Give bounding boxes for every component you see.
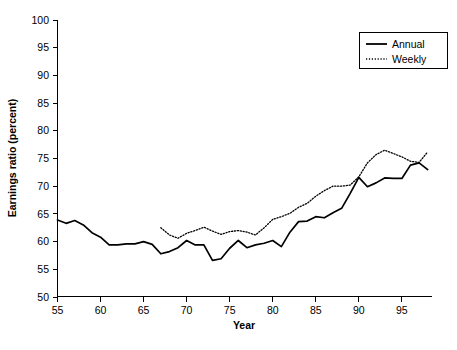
x-tick-label: 95 <box>396 304 408 316</box>
chart-container: 50556065707580859095100 Earnings ratio (… <box>0 0 457 350</box>
y-tick-label: 85 <box>37 97 49 109</box>
y-tick-label: 80 <box>37 124 49 136</box>
y-tick-label: 65 <box>37 208 49 220</box>
x-tick-label: 80 <box>267 304 279 316</box>
y-tick-label: 100 <box>31 14 49 26</box>
chart-legend: Annual Weekly <box>360 33 448 69</box>
legend-label-annual: Annual <box>392 38 425 50</box>
x-axis-title: Year <box>233 319 255 331</box>
y-tick-label: 70 <box>37 180 49 192</box>
y-tick-label: 90 <box>37 69 49 81</box>
x-tick-label: 55 <box>52 304 64 316</box>
x-tick-label: 70 <box>181 304 193 316</box>
legend-label-weekly: Weekly <box>392 53 427 65</box>
x-tick-label: 65 <box>138 304 150 316</box>
y-tick-label: 60 <box>37 235 49 247</box>
x-tick-label: 60 <box>95 304 107 316</box>
x-tick-label: 85 <box>310 304 322 316</box>
x-tick-label: 75 <box>224 304 236 316</box>
y-tick-label: 95 <box>37 41 49 53</box>
x-axis-tick-labels: 556065707580859095 <box>52 304 408 316</box>
y-axis-title: Earnings ratio (percent) <box>6 99 18 217</box>
x-tick-label: 90 <box>353 304 365 316</box>
y-tick-label: 55 <box>37 263 49 275</box>
y-tick-label: 50 <box>37 291 49 303</box>
y-tick-label: 75 <box>37 152 49 164</box>
earnings-ratio-line-chart: 50556065707580859095100 Earnings ratio (… <box>0 0 457 350</box>
